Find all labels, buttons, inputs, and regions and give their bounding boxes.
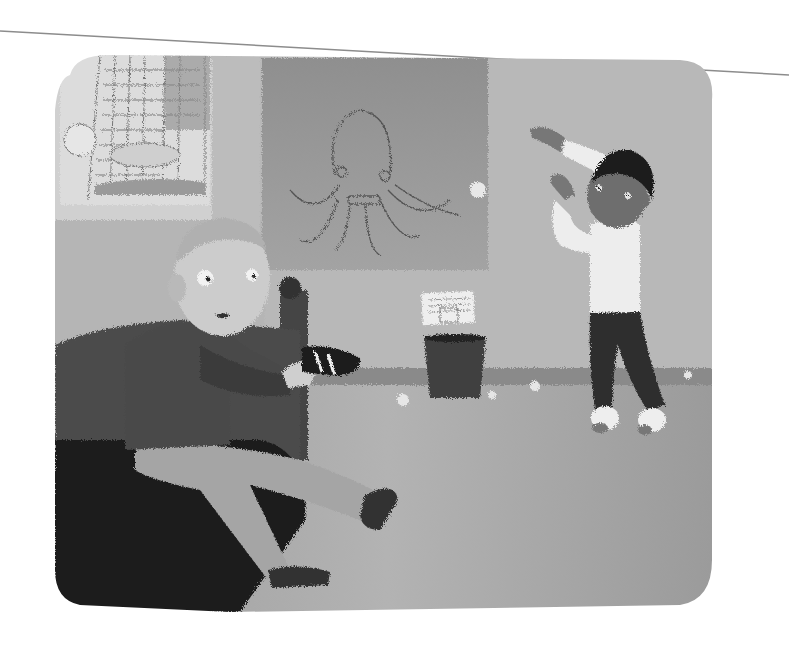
soccer-goal-sketch [60,55,210,205]
paper-note [421,291,475,326]
octopus-poster [262,58,488,270]
illustration-scene [0,0,789,657]
soccer-ball-icon [64,124,96,156]
trash-can [424,336,486,398]
paper-ball [470,182,486,198]
